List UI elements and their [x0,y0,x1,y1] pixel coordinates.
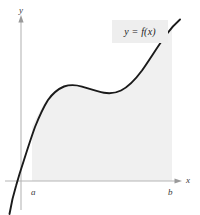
curve-label-box: y = f(x) [112,20,168,43]
y-axis-arrowhead [18,15,23,23]
x-axis-arrowhead [175,178,183,183]
shaded-area-under-curve [32,28,172,181]
figure-canvas [0,0,200,215]
lower-bound-label-a: a [31,188,36,197]
curve-label-text: y = f(x) [124,26,156,37]
y-axis-label: y [19,6,23,15]
area-under-curve-figure: y x a b y = f(x) [0,0,200,215]
x-axis-label: x [186,176,190,185]
upper-bound-label-b: b [168,188,173,197]
